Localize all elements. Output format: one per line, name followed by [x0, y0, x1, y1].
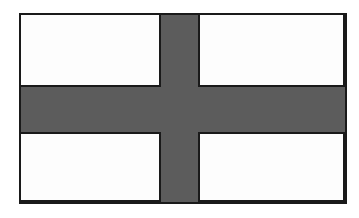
image-canvas — [0, 0, 359, 218]
cross-horizontal-bar — [21, 89, 345, 132]
flag-panel-bottom-right — [198, 132, 345, 202]
flag-panel-bottom-left — [19, 132, 161, 202]
flag-panel-top-left — [19, 13, 161, 87]
flag-panel-top-right — [198, 13, 345, 87]
nordic-cross-flag — [19, 13, 347, 204]
cross-vertical-bar — [163, 15, 198, 202]
